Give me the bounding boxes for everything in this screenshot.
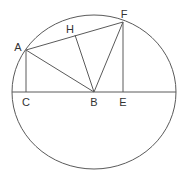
label-a: A [14, 41, 22, 53]
segment-hb [75, 35, 94, 92]
label-b: B [90, 96, 97, 108]
segments [26, 22, 123, 92]
label-c: C [22, 96, 30, 108]
label-e: E [119, 96, 126, 108]
geometry-diagram: A H F C B E [0, 0, 182, 175]
segment-af [26, 22, 123, 50]
label-h: H [66, 23, 74, 35]
diagram-canvas: A H F C B E [0, 0, 182, 175]
segment-ab [26, 50, 94, 92]
point-labels: A H F C B E [14, 8, 127, 108]
label-f: F [121, 8, 128, 20]
segment-fb [94, 22, 123, 92]
